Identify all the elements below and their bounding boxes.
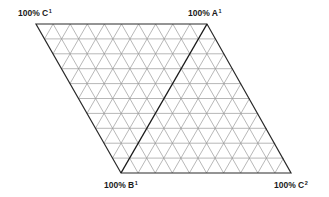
ternary-rhombus-diagram bbox=[0, 0, 329, 197]
label-100-c1: 100% C1 bbox=[18, 9, 52, 18]
label-text: 100% B bbox=[104, 180, 134, 190]
label-superscript: 2 bbox=[305, 180, 308, 186]
label-superscript: 1 bbox=[218, 8, 221, 14]
grid-line-right-diagonal bbox=[172, 69, 232, 173]
label-100-a1: 100% A1 bbox=[188, 9, 222, 18]
label-text: 100% A bbox=[188, 8, 218, 18]
label-100-b1: 100% B1 bbox=[104, 181, 138, 190]
grid-line-right-diagonal bbox=[79, 24, 122, 99]
label-superscript: 1 bbox=[135, 180, 138, 186]
label-text: 100% C bbox=[18, 8, 48, 18]
label-100-c2: 100% C2 bbox=[274, 181, 308, 190]
grid-line-right-diagonal bbox=[138, 39, 215, 173]
label-text: 100% C bbox=[274, 180, 304, 190]
grid-line-right-diagonal bbox=[207, 99, 250, 174]
grid-line-right-diagonal bbox=[275, 158, 284, 173]
label-superscript: 1 bbox=[49, 8, 52, 14]
grid-line-right-diagonal bbox=[96, 24, 156, 128]
grid-line-right-diagonal bbox=[45, 24, 54, 39]
grid-line-right-diagonal bbox=[113, 24, 190, 158]
